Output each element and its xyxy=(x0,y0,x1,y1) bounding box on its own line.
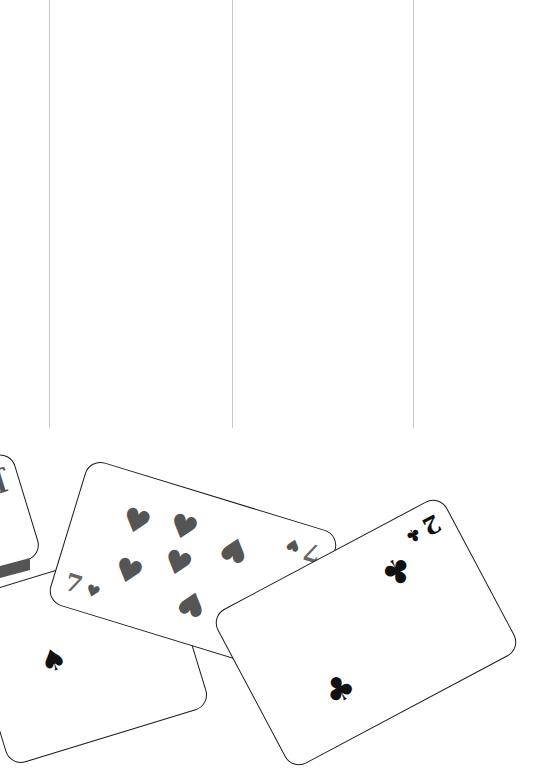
column-divider-1 xyxy=(49,0,50,428)
heart-icon: ♥ xyxy=(216,530,253,569)
heart-icon: ♥ xyxy=(118,502,155,541)
card-rank-top: 2 xyxy=(419,510,445,539)
heart-icon: ♥ xyxy=(174,584,211,623)
heart-icon: ♥ xyxy=(160,544,197,583)
card-rank: J xyxy=(0,469,10,497)
card-rank-bottom: 7 xyxy=(62,570,85,598)
heart-icon: ♥ xyxy=(110,552,147,591)
spade-icon: ♠ xyxy=(36,642,71,679)
club-icon: ♣ xyxy=(318,667,361,711)
heart-icon-corner-top: ♥ xyxy=(284,534,302,553)
club-icon: ♣ xyxy=(375,549,418,593)
club-icon-corner: ♣ xyxy=(402,524,423,546)
heart-icon-corner-bottom: ♥ xyxy=(84,582,102,601)
column-divider-3 xyxy=(413,0,414,428)
column-divider-2 xyxy=(232,0,233,428)
